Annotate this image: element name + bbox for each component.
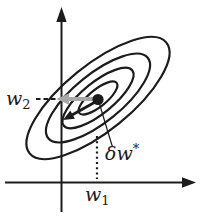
label-delta-w-superscript: * xyxy=(133,141,140,156)
label-w2-subscript: 2 xyxy=(22,97,30,112)
label-w1-base: w xyxy=(85,183,101,205)
label-delta-w-star: δw* xyxy=(105,142,139,163)
label-delta-w-base: δw xyxy=(105,142,133,164)
label-w1-subscript: 1 xyxy=(101,193,109,208)
label-w2-base: w xyxy=(6,87,22,109)
label-w2: w2 xyxy=(6,89,31,111)
y-axis-arrowhead-icon xyxy=(56,7,66,22)
x-axis-arrowhead-icon xyxy=(182,177,196,187)
minimum-dot xyxy=(92,94,103,105)
black-arrow-shaft xyxy=(72,101,97,115)
contour-diagram: w2 w1 δw* xyxy=(0,0,206,221)
label-w1: w1 xyxy=(85,185,110,207)
